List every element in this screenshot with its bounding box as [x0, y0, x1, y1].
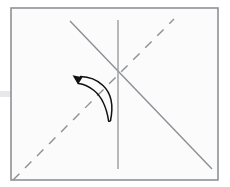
- origami-diagram: [0, 0, 230, 187]
- paper-sheet: [11, 8, 218, 180]
- diagram-canvas: [0, 0, 230, 187]
- fold-arrow-tail-join: [109, 121, 111, 122]
